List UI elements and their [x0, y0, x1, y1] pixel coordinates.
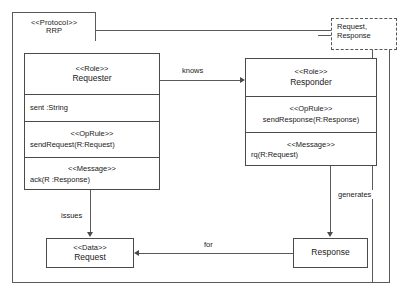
protocol-name-tab: <<Protocol>> RRP — [12, 12, 96, 41]
role-box-responder[interactable]: <<Role>> Responder <<OpRule>> sendRespon… — [245, 58, 377, 166]
association-generates-label: generates — [336, 190, 373, 199]
role-box-requester[interactable]: <<Role>> Requester sent :String <<OpRule… — [24, 53, 160, 190]
responder-message: rq(R:Request) — [251, 150, 371, 160]
requester-attribute-sent: sent :String — [30, 103, 68, 113]
responder-header: <<Role>> Responder — [246, 59, 376, 97]
association-issues-line — [90, 190, 91, 233]
requester-attributes: sent :String — [25, 95, 159, 122]
diagram-canvas: <<Protocol>> RRP Request, Response <<Rol… — [0, 0, 410, 294]
responder-oprule-compartment: <<OpRule>> sendResponse(R:Response) — [246, 97, 376, 133]
association-knows-line — [160, 80, 241, 81]
requester-header: <<Role>> Requester — [25, 54, 159, 95]
parameter-note-line-2: Response — [337, 31, 391, 40]
requester-oprule: sendRequest(R:Request) — [30, 140, 154, 150]
requester-message-compartment: <<Message>> ack(R :Response) — [25, 158, 159, 191]
association-issues-arrowhead — [87, 232, 93, 237]
data-box-request[interactable]: <<Data>> Request — [46, 238, 134, 268]
association-issues-label: issues — [59, 211, 84, 220]
requester-oprule-stereotype: <<OpRule>> — [30, 129, 154, 138]
association-for-label: for — [202, 240, 215, 249]
parameter-note: Request, Response — [331, 18, 397, 50]
data-box-response[interactable]: Response — [293, 238, 368, 268]
association-generates-line — [330, 166, 331, 233]
responder-name: Responder — [290, 77, 332, 88]
request-stereotype: <<Data>> — [73, 243, 106, 252]
responder-oprule: sendResponse(R:Response) — [251, 115, 371, 125]
requester-message: ack(R :Response) — [30, 175, 154, 185]
requester-stereotype: <<Role>> — [76, 64, 109, 73]
requester-message-stereotype: <<Message>> — [30, 164, 154, 173]
association-generates-arrowhead — [327, 232, 333, 237]
parameter-note-leader-left — [318, 35, 332, 36]
request-name: Request — [74, 252, 106, 263]
requester-name: Requester — [72, 73, 111, 84]
requester-oprule-compartment: <<OpRule>> sendRequest(R:Request) — [25, 122, 159, 158]
association-for-arrowhead — [134, 250, 139, 256]
responder-message-compartment: <<Message>> rq(R:Request) — [246, 133, 376, 167]
responder-message-stereotype: <<Message>> — [251, 140, 371, 149]
protocol-name: RRP — [46, 27, 62, 35]
parameter-note-line-1: Request, — [337, 22, 391, 31]
responder-oprule-stereotype: <<OpRule>> — [251, 104, 371, 113]
responder-stereotype: <<Role>> — [295, 67, 328, 76]
association-for-line — [139, 253, 293, 254]
association-knows-label: knows — [180, 66, 205, 75]
response-name: Response — [311, 247, 349, 258]
